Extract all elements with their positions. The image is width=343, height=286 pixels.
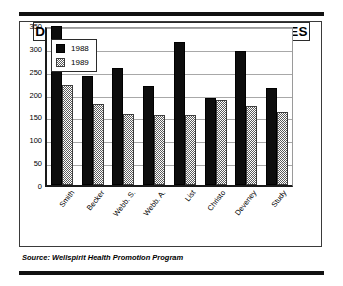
bar-1989	[185, 115, 196, 185]
y-axis-tick-label: 300	[29, 46, 42, 54]
x-axis-tick-label: Smith	[58, 189, 76, 209]
bar-1989	[277, 112, 288, 185]
bar-group	[205, 28, 227, 185]
x-axis-tick-label: Christo	[207, 189, 228, 212]
chart-legend: 1988 1989	[51, 39, 97, 72]
bar-group	[143, 28, 165, 185]
bar-group	[112, 28, 134, 185]
bottom-divider-rule	[19, 271, 324, 275]
bar-1988	[112, 68, 123, 185]
bar-1988	[82, 76, 93, 185]
bar-1988	[235, 51, 246, 185]
y-axis-tick-label: 50	[34, 160, 42, 168]
y-axis-tick-labels: 350300250200150100500	[20, 27, 42, 187]
legend-item-1989: 1989	[56, 57, 89, 68]
bar-1988	[266, 88, 277, 185]
bar-group	[266, 28, 288, 185]
x-axis-tick-label: Deveney	[233, 189, 257, 217]
y-axis-tick-label: 0	[38, 183, 42, 191]
plot-area-wrapper: 350300250200150100500 1988 1989 SmithBec…	[20, 27, 295, 217]
bar-1989	[216, 100, 227, 185]
x-axis-tick-label: Study	[270, 189, 288, 209]
x-axis-tick-label: Webb. S.	[112, 189, 137, 218]
source-caption: Source: Wellspirit Health Promotion Prog…	[22, 254, 183, 262]
x-axis-tick-label: List	[184, 189, 197, 203]
bar-1989	[93, 104, 104, 185]
x-axis-category-labels: SmithBeckerWebb. S.Webb. A.ListChristoDe…	[45, 189, 293, 233]
y-axis-tick-label: 150	[29, 115, 42, 123]
legend-label-1988: 1988	[71, 45, 89, 53]
y-axis-tick-label: 250	[29, 69, 42, 77]
top-divider-rule	[19, 12, 324, 16]
x-axis-tick-label: Webb. A.	[142, 189, 167, 217]
bar-1989	[62, 85, 73, 185]
bar-group	[235, 28, 257, 185]
y-axis-tick-label: 200	[29, 92, 42, 100]
bar-1988	[174, 42, 185, 185]
legend-label-1989: 1989	[71, 59, 89, 67]
y-axis-tick-label: 350	[29, 23, 42, 31]
x-axis-tick-label: Becker	[86, 189, 106, 212]
bar-group	[174, 28, 196, 185]
solid-black-swatch-icon	[56, 44, 65, 53]
bar-1989	[246, 106, 257, 185]
y-axis-tick-label: 100	[29, 138, 42, 146]
bar-1989	[123, 114, 134, 185]
bar-1988	[205, 98, 216, 185]
bar-1988	[143, 86, 154, 185]
dithered-gray-swatch-icon	[56, 58, 65, 67]
chart-page: DECREASES IN CHOLESTEROL - MALES 3503002…	[0, 0, 343, 286]
legend-item-1988: 1988	[56, 43, 89, 54]
bar-1989	[154, 115, 165, 185]
